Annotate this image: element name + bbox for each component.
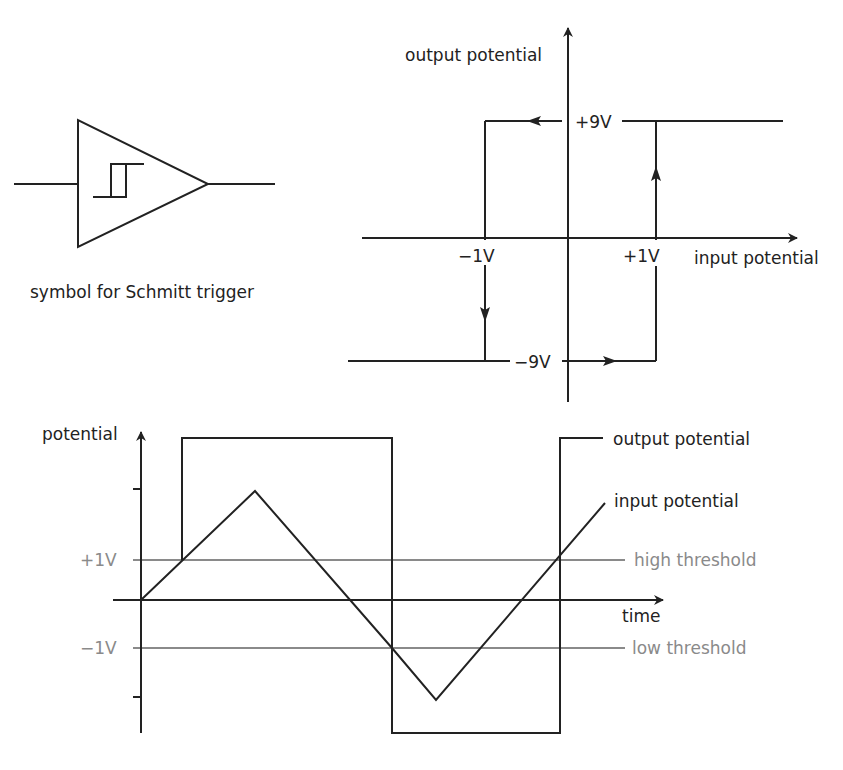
schmitt-trigger-symbol (14, 120, 275, 247)
plus-1v-label: +1V (623, 246, 660, 266)
amplifier-triangle-icon (78, 120, 208, 247)
high-threshold-label: high threshold (634, 550, 757, 570)
input-axis-label: input potential (694, 248, 819, 268)
direction-arrows (480, 116, 661, 366)
schmitt-trigger-diagram: symbol for Schmitt trigger output potent… (0, 0, 843, 770)
plus-1v-tick-label: +1V (80, 550, 117, 570)
symbol-caption: symbol for Schmitt trigger (30, 282, 254, 302)
potential-axis-label: potential (42, 424, 118, 444)
minus-1v-label: −1V (458, 246, 495, 266)
hysteresis-glyph-icon-left (111, 164, 126, 197)
input-potential-trace (141, 491, 605, 700)
output-potential-label: output potential (613, 429, 750, 449)
output-potential-trace (182, 438, 603, 733)
plus-9v-label: +9V (575, 112, 612, 132)
output-axis-label: output potential (405, 45, 542, 65)
input-potential-label: input potential (614, 491, 739, 511)
time-axis-label: time (622, 606, 660, 626)
low-threshold-label: low threshold (632, 638, 747, 658)
hysteresis-glyph-icon (93, 164, 144, 197)
time-chart (113, 432, 663, 733)
transfer-chart (348, 28, 797, 402)
minus-1v-tick-label: −1V (80, 638, 117, 658)
minus-9v-label: −9V (514, 352, 551, 372)
